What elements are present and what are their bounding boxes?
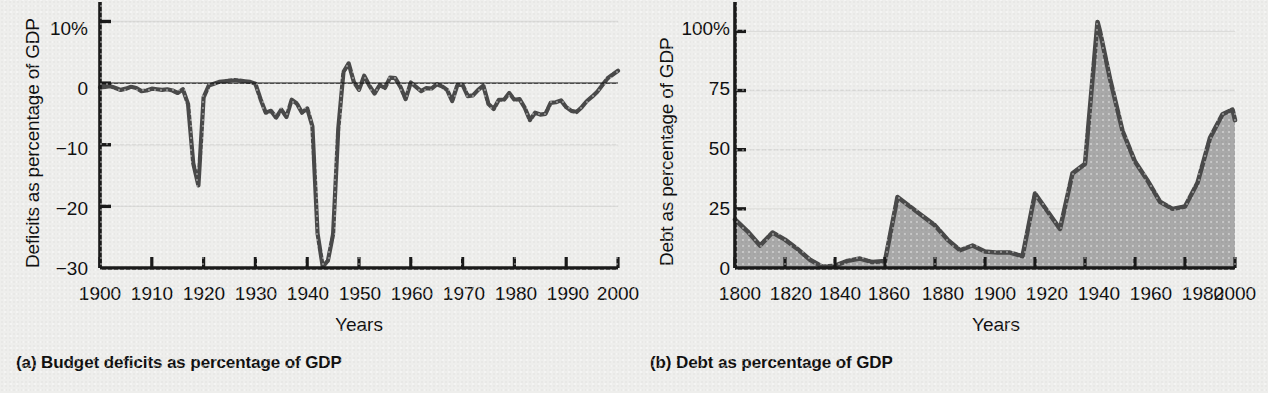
panel-b-xtick-1860: 1860 bbox=[860, 283, 918, 305]
panel-a-xtick-1920: 1920 bbox=[175, 283, 233, 305]
panel-a-x-axis-title: Years bbox=[259, 314, 459, 336]
panel-b-xtick-1960: 1960 bbox=[1122, 283, 1180, 305]
panel-b-x-axis-title: Years bbox=[896, 314, 1096, 336]
panel-b-xtick-1800: 1800 bbox=[711, 283, 769, 305]
panel-a-plot bbox=[0, 0, 634, 300]
panel-b-xtick-2000: 2000 bbox=[1206, 283, 1264, 305]
panel-a-xtick-1930: 1930 bbox=[227, 283, 285, 305]
panel-a-xtick-1970: 1970 bbox=[435, 283, 493, 305]
panel-b-xtick-1900: 1900 bbox=[966, 283, 1024, 305]
panel-a-xtick-1960: 1960 bbox=[383, 283, 441, 305]
panel-b-plot bbox=[634, 0, 1268, 300]
panel-b-xtick-1920: 1920 bbox=[1018, 283, 1076, 305]
panel-budget-deficits: Deficits as percentage of GDP 10% 0 −10 … bbox=[0, 0, 634, 393]
panel-a-caption: (a) Budget deficits as percentage of GDP bbox=[16, 353, 342, 373]
panel-a-xtick-1900: 1900 bbox=[71, 283, 129, 305]
panel-debt: Debt as percentage of GDP 100% 75 50 25 … bbox=[634, 0, 1268, 393]
panel-a-xtick-1910: 1910 bbox=[123, 283, 181, 305]
panel-b-xtick-1880: 1880 bbox=[914, 283, 972, 305]
panel-a-xtick-1940: 1940 bbox=[279, 283, 337, 305]
panel-a-xtick-1950: 1950 bbox=[331, 283, 389, 305]
panel-b-caption: (b) Debt as percentage of GDP bbox=[650, 353, 893, 373]
panel-a-xtick-1980: 1980 bbox=[487, 283, 545, 305]
panel-b-xtick-1940: 1940 bbox=[1070, 283, 1128, 305]
